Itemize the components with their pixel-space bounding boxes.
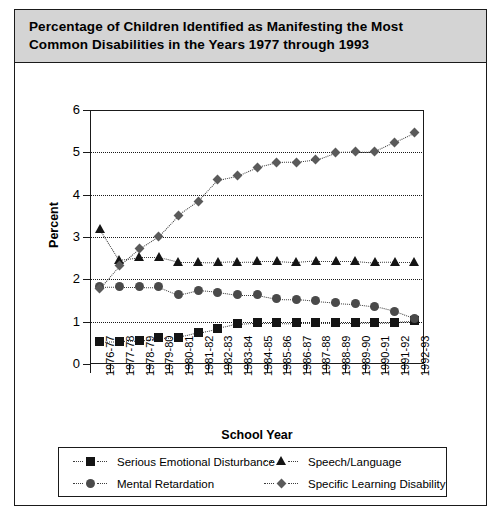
legend-label: Mental Retardation (117, 478, 214, 490)
figure-page: Percentage of Children Identified as Man… (0, 0, 501, 517)
legend-label: Speech/Language (308, 456, 401, 468)
figure-title-line-2: Common Disabilities in the Years 1977 th… (29, 36, 486, 54)
legend-marker-swatch (264, 477, 298, 489)
legend-dot-line-right (288, 483, 298, 484)
square-marker-icon (86, 457, 95, 466)
legend-marker-swatch (73, 455, 107, 467)
legend-dot-line-left (73, 483, 83, 484)
legend-dot-line-left (264, 461, 274, 462)
diamond-marker-icon (276, 478, 286, 488)
figure-title-line-1: Percentage of Children Identified as Man… (29, 18, 486, 36)
triangle-marker-icon (276, 456, 286, 465)
legend-label: Specific Learning Disability (308, 478, 445, 490)
legend-marker-swatch (73, 477, 107, 489)
legend-dot-line-right (97, 483, 107, 484)
figure-title-banner: Percentage of Children Identified as Man… (14, 9, 487, 63)
figure-body-box (14, 62, 487, 506)
legend-dot-line-right (97, 461, 107, 462)
legend-dot-line-left (73, 461, 83, 462)
legend-dot-line-right (288, 461, 298, 462)
legend-marker-swatch (264, 455, 298, 467)
legend-dot-line-left (264, 483, 274, 484)
legend-label: Serious Emotional Disturbance (117, 456, 275, 468)
chart-legend: Serious Emotional DisturbanceSpeech/Lang… (58, 447, 447, 497)
circle-marker-icon (86, 479, 95, 488)
